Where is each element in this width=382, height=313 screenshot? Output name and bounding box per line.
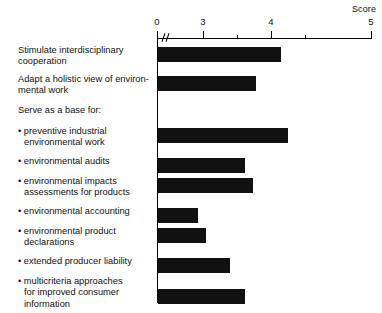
- axis-tick-label-4: 4: [268, 16, 273, 27]
- row-label-line2: for improved consumer: [24, 287, 159, 298]
- bar-multicriteria-approaches: [158, 289, 245, 304]
- axis-tick-3: [203, 31, 204, 38]
- x-axis-line: [157, 38, 372, 39]
- axis-break-icon: [161, 33, 171, 42]
- bar-environmental-accounting: [158, 208, 198, 223]
- row-label-line1: Adapt a holistic view of environ-: [18, 74, 153, 85]
- row-label-line1: Stimulate interdisciplinary: [18, 45, 153, 56]
- row-label-line2: environmental work: [24, 137, 153, 148]
- row-label-line2: assessments for products: [24, 187, 159, 198]
- row-label-line2: cooperation: [18, 56, 153, 67]
- row-label-line1: • environmental accounting: [18, 206, 159, 217]
- row-label-line1: • environmental impacts: [18, 176, 159, 187]
- row-label-line2: mental work: [18, 85, 153, 96]
- row-label-serve-as-a-base-for: Serve as a base for:: [18, 105, 153, 116]
- axis-tick-label-0: 0: [154, 16, 159, 27]
- bar-environmental-product-declarations: [158, 228, 206, 243]
- row-label-line1: • environmental audits: [18, 156, 159, 167]
- bar-extended-producer-liability: [158, 258, 230, 273]
- bar-environmental-impacts-assessments: [158, 178, 253, 193]
- row-label-line1: • extended producer liability: [18, 256, 159, 267]
- row-label-line3: information: [24, 299, 159, 310]
- axis-tick-5: [371, 31, 372, 38]
- bar-environmental-audits: [158, 158, 245, 173]
- row-label-line1: • environmental product: [18, 226, 159, 237]
- row-label-line1: • preventive industrial: [18, 126, 159, 137]
- axis-caption-score: Score: [352, 4, 376, 14]
- axis-tick-label-5: 5: [368, 16, 373, 27]
- axis-tick-0: [157, 31, 158, 38]
- row-label-line1: • multicriteria approaches: [18, 276, 159, 287]
- bar-adapt-holistic-view: [158, 76, 256, 91]
- bar-chart: Score 0 3 4 5 Stimulate interdisciplinar…: [0, 0, 382, 313]
- bar-preventive-industrial-environmental-work: [158, 128, 288, 143]
- bar-stimulate-interdisciplinary-cooperation: [158, 47, 281, 62]
- row-label-line2: declarations: [24, 237, 159, 248]
- axis-tick-label-3: 3: [200, 16, 205, 27]
- axis-tick-4: [271, 31, 272, 38]
